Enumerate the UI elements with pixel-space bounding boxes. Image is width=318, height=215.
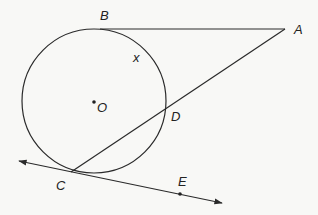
tangent-line-ce: [19, 161, 222, 203]
label-arc-x: x: [132, 50, 140, 65]
center-point-o: [92, 100, 96, 104]
label-c: C: [56, 178, 66, 193]
label-o: O: [97, 100, 107, 115]
label-b: B: [100, 8, 109, 23]
label-d: D: [171, 109, 180, 124]
label-e: E: [178, 174, 187, 189]
geometry-diagram: B A x O D C E: [0, 0, 318, 215]
label-a: A: [293, 22, 303, 37]
point-e-dot: [178, 192, 182, 196]
